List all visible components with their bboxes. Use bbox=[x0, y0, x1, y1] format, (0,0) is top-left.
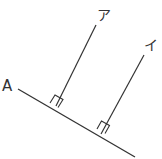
base-line-a bbox=[18, 89, 135, 157]
perpendicular-line-a bbox=[56, 25, 96, 106]
label-a: A bbox=[2, 79, 12, 94]
label-line1: ア bbox=[97, 8, 111, 22]
label-line2: イ bbox=[144, 38, 158, 52]
perpendicular-line-i bbox=[101, 55, 144, 134]
diagram-canvas bbox=[0, 0, 162, 159]
